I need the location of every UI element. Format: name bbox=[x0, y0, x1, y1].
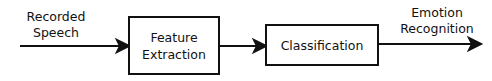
output-label-line-1: Emotion bbox=[392, 5, 482, 21]
block-label-line-1: Feature bbox=[150, 29, 197, 46]
block-diagram: Recorded Speech Feature Extraction Class… bbox=[0, 0, 492, 81]
classification-block: Classification bbox=[265, 24, 379, 66]
feature-extraction-block: Feature Extraction bbox=[128, 16, 220, 75]
input-label-line-2: Speech bbox=[24, 25, 88, 41]
output-label: Emotion Recognition bbox=[392, 5, 482, 37]
block-label: Classification bbox=[281, 37, 364, 54]
input-label-line-1: Recorded bbox=[24, 9, 88, 25]
block-label-line-2: Extraction bbox=[142, 46, 206, 63]
input-label: Recorded Speech bbox=[24, 9, 88, 41]
output-label-line-2: Recognition bbox=[392, 21, 482, 37]
